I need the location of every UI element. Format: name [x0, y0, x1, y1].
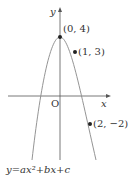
origin-label: O [51, 98, 59, 109]
vertex-label: (0, 4) [63, 23, 90, 34]
point-1-3 [73, 50, 77, 54]
equation-label: y=ax²+bx+c [5, 164, 70, 175]
vertex-point [58, 35, 62, 39]
parabola-diagram: y x O (0, 4) (1, 3) (2, −2) y=ax²+bx+c [0, 0, 138, 179]
x-axis-label: x [101, 98, 107, 109]
y-axis-arrow-icon [58, 7, 62, 12]
point-2-neg2 [88, 122, 92, 126]
x-axis-arrow-icon [106, 94, 111, 98]
y-axis-label: y [49, 6, 56, 17]
point-2-neg2-label: (2, −2) [93, 118, 128, 129]
point-1-3-label: (1, 3) [78, 46, 105, 57]
